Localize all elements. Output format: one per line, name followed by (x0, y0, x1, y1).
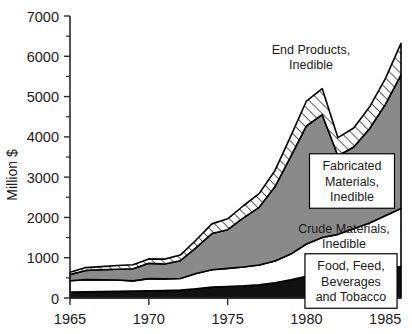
food-feed-label-line: Food, Feed, (317, 259, 384, 273)
end-products-label-line: Inedible (289, 58, 333, 72)
food-feed-label: Food, Feed,Beveragesand Tobacco (305, 254, 397, 309)
y-tick-label: 4000 (27, 129, 59, 145)
y-tick-label: 5000 (27, 89, 59, 105)
fabricated-materials-label-line: Fabricated (322, 159, 381, 173)
y-tick-label: 7000 (27, 9, 59, 25)
x-tick-label: 1975 (211, 311, 243, 327)
y-tick-label: 0 (51, 291, 59, 307)
y-tick-label: 1000 (27, 250, 59, 266)
x-tick-label: 1980 (290, 311, 322, 327)
y-tick-label: 3000 (27, 170, 59, 186)
crude-materials-label-line: Crude Materials, (298, 222, 390, 236)
stacked-area-chart: 0100020003000400050006000700019651970197… (0, 0, 412, 334)
y-tick-label: 6000 (27, 49, 59, 65)
x-tick-label: 1970 (133, 311, 165, 327)
fabricated-materials-label: FabricatedMaterials,Inedible (310, 154, 395, 209)
x-tick-label: 1985 (369, 311, 401, 327)
food-feed-label-line: Beverages (321, 275, 381, 289)
fabricated-materials-label-line: Materials, (325, 175, 379, 189)
y-axis-title: Million $ (4, 149, 20, 201)
end-products-label-line: End Products, (272, 43, 351, 57)
y-tick-label: 2000 (27, 210, 59, 226)
end-products-label: End Products,Inedible (272, 43, 351, 73)
fabricated-materials-label-line: Inedible (330, 190, 374, 204)
x-tick-label: 1965 (54, 311, 86, 327)
crude-materials-label-line: Inedible (322, 237, 366, 251)
food-feed-label-line: and Tobacco (316, 290, 387, 304)
chart-container: 0100020003000400050006000700019651970197… (0, 0, 412, 334)
